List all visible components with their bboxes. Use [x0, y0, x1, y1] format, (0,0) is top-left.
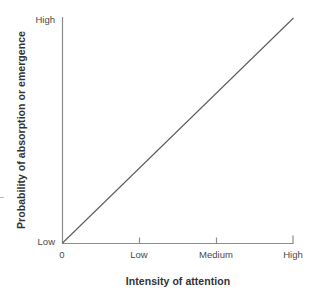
x-axis-tick-label-high: High: [263, 249, 315, 260]
x-axis-title: Intensity of attention: [62, 275, 294, 287]
x-axis-tick-label-low: Low: [109, 249, 169, 260]
chart-figure: High Low 0 Low Medium High Probability o…: [0, 0, 315, 293]
scan-artifact-mark: [0, 197, 4, 198]
y-axis-title: Probability of absorption or emergence: [10, 1, 32, 259]
x-axis-tick-label-zero: 0: [32, 249, 92, 260]
data-line-series-1: [63, 18, 294, 243]
x-axis-tick-label-medium: Medium: [186, 249, 246, 260]
